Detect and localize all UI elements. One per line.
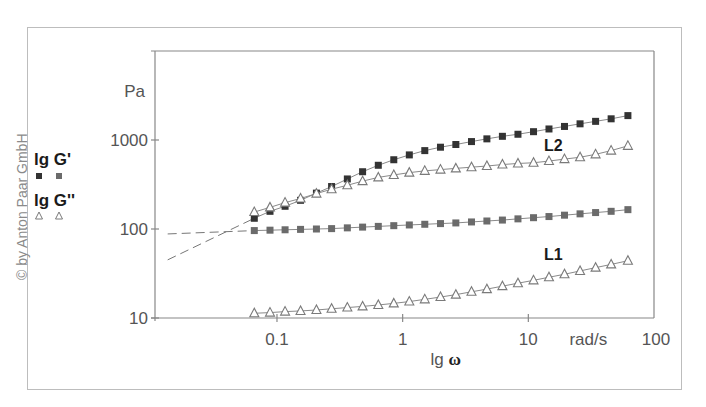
data-point-square xyxy=(421,221,428,228)
x-tick-label: 10 xyxy=(519,330,538,349)
data-point-square xyxy=(328,225,335,232)
data-point-triangle xyxy=(266,308,275,317)
data-point-square xyxy=(514,131,521,138)
extrapolation-line xyxy=(168,218,255,260)
extrapolation-line xyxy=(168,231,255,234)
data-point-square xyxy=(390,156,397,163)
data-point-square xyxy=(282,226,289,233)
data-point-square xyxy=(561,212,568,219)
legend-marker-triangle xyxy=(36,212,43,219)
data-point-square xyxy=(499,217,506,224)
data-point-square xyxy=(297,226,304,233)
data-point-square xyxy=(545,125,552,132)
series-line xyxy=(254,261,628,314)
data-point-square xyxy=(406,151,413,158)
data-point-square xyxy=(624,206,631,213)
data-point-square xyxy=(592,209,599,216)
data-point-square xyxy=(577,210,584,217)
data-point-triangle xyxy=(281,307,290,316)
curve-label-l2: L2 xyxy=(544,137,563,154)
data-point-square xyxy=(313,226,320,233)
data-point-square xyxy=(375,162,382,169)
data-point-square xyxy=(406,221,413,228)
series-line xyxy=(254,146,628,212)
data-point-square xyxy=(514,215,521,222)
data-point-square xyxy=(545,213,552,220)
data-point-square xyxy=(359,224,366,231)
series-l1-g- xyxy=(250,256,633,317)
data-point-square xyxy=(530,128,537,135)
legend-marker-square-light xyxy=(56,173,62,179)
data-point-square xyxy=(251,227,258,234)
data-point-square xyxy=(530,214,537,221)
legend-label-storage-modulus: lg G' xyxy=(34,150,71,169)
data-point-square xyxy=(483,135,490,142)
legend-marker-square-dark xyxy=(36,173,42,179)
data-point-square xyxy=(468,218,475,225)
data-point-triangle xyxy=(498,160,507,169)
series-l1-g- xyxy=(251,206,632,234)
data-point-square xyxy=(437,144,444,151)
data-point-triangle xyxy=(250,308,259,317)
data-point-triangle xyxy=(296,306,305,315)
x-axis-title-symbol: ω xyxy=(448,350,460,369)
rheology-chart: 101001000Pa0.1110rad/s100lg ω lg G'lg G'… xyxy=(0,0,706,407)
data-point-square xyxy=(437,220,444,227)
data-point-square xyxy=(452,219,459,226)
data-point-square xyxy=(608,115,615,122)
data-point-square xyxy=(592,118,599,125)
x-tick-label: 0.1 xyxy=(265,330,289,349)
y-unit-label: Pa xyxy=(124,82,145,101)
data-point-square xyxy=(267,227,274,234)
data-series xyxy=(250,112,633,317)
data-point-square xyxy=(499,133,506,140)
x-axis-title-prefix: lg xyxy=(430,350,448,369)
series-l2-g- xyxy=(250,141,633,216)
data-point-triangle xyxy=(343,303,352,312)
data-point-square xyxy=(375,223,382,230)
x-tick-label: 100 xyxy=(642,330,670,349)
data-point-square xyxy=(390,222,397,229)
x-axis-title: lg ω xyxy=(430,350,460,369)
data-point-square xyxy=(359,168,366,175)
data-point-square xyxy=(608,208,615,215)
x-tick-label: 1 xyxy=(398,330,407,349)
data-point-triangle xyxy=(623,256,632,265)
y-tick-label: 1000 xyxy=(110,131,148,150)
legend-label-loss-modulus: lg G'' xyxy=(34,191,75,210)
data-point-square xyxy=(468,138,475,145)
data-point-triangle xyxy=(327,304,336,313)
legend-marker-triangle xyxy=(56,212,63,219)
data-point-square xyxy=(344,224,351,231)
annotations: L2L1 xyxy=(544,137,563,263)
axes xyxy=(151,51,654,322)
data-point-triangle xyxy=(623,141,632,150)
y-tick-label: 10 xyxy=(129,309,148,328)
data-point-square xyxy=(577,120,584,127)
data-point-square xyxy=(452,141,459,148)
legend: lg G'lg G'' xyxy=(34,150,75,219)
data-point-square xyxy=(483,217,490,224)
x-unit-label: rad/s xyxy=(569,330,607,349)
data-point-triangle xyxy=(467,162,476,171)
data-point-triangle xyxy=(451,163,460,172)
data-point-square xyxy=(421,147,428,154)
data-point-triangle xyxy=(513,158,522,167)
data-point-square xyxy=(624,112,631,119)
y-tick-label: 100 xyxy=(120,220,148,239)
curve-label-l1: L1 xyxy=(544,246,563,263)
data-point-square xyxy=(561,123,568,130)
extrapolation-lines xyxy=(168,218,255,260)
